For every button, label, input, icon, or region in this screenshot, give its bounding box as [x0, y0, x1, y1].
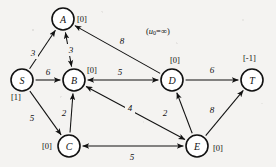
- node-potential-c: [0]: [42, 141, 52, 151]
- graph-edge-c-b: [70, 94, 73, 133]
- edge-cost-e-c: 5: [130, 152, 135, 162]
- nodes-layer: SABCDET: [11, 8, 263, 157]
- edge-cost-s-a: 3: [30, 48, 36, 58]
- graph-node-e[interactable]: E: [186, 135, 208, 157]
- node-label-c: C: [66, 141, 73, 152]
- network-flow-figure: 365325482568 SABCDET [1][0][0][0][0][0][…: [0, 0, 276, 167]
- node-label-a: A: [59, 14, 67, 25]
- capacity-annotation: (u0=∞): [146, 26, 170, 36]
- edge-cost-b-d: 5: [118, 67, 123, 77]
- node-label-b: B: [71, 75, 77, 86]
- graph-node-b[interactable]: B: [63, 69, 85, 91]
- edge-cost-b-e: 4: [128, 103, 133, 113]
- edge-cost-e-d: 2: [163, 108, 168, 118]
- node-potential-t: [-1]: [243, 53, 256, 63]
- graph-node-c[interactable]: C: [58, 135, 80, 157]
- graph-canvas: 365325482568 SABCDET [1][0][0][0][0][0][…: [0, 0, 276, 167]
- graph-node-d[interactable]: D: [161, 69, 183, 91]
- node-label-e: E: [193, 141, 200, 152]
- edge-cost-b-a: 3: [68, 45, 74, 55]
- node-potential-labels-layer: [1][0][0][0][0][0][-1]: [11, 14, 256, 153]
- node-potential-a: [0]: [77, 14, 87, 24]
- node-label-s: S: [20, 75, 25, 86]
- graph-node-s[interactable]: S: [11, 69, 33, 91]
- edge-cost-e-t: 8: [210, 105, 215, 115]
- edge-cost-c-b: 2: [62, 108, 67, 118]
- graph-edge-e-d: [177, 93, 192, 134]
- node-potential-b: [0]: [87, 65, 97, 75]
- node-label-d: D: [167, 75, 176, 86]
- graph-edge-b-e: [86, 86, 185, 139]
- edge-cost-d-a: 8: [120, 36, 125, 46]
- edge-cost-d-t: 6: [210, 65, 215, 75]
- edge-cost-s-b: 6: [46, 67, 51, 77]
- graph-node-t[interactable]: T: [241, 69, 263, 91]
- edge-cost-s-c: 5: [30, 113, 35, 123]
- edges-layer: [30, 26, 244, 146]
- graph-node-a[interactable]: A: [52, 8, 74, 30]
- node-potential-s: [1]: [11, 92, 21, 102]
- node-potential-d: [0]: [170, 55, 180, 65]
- node-potential-e: [0]: [213, 143, 223, 153]
